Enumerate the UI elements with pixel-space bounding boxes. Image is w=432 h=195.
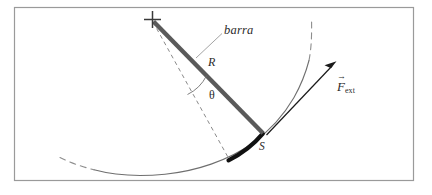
label-external-force: →Fext xyxy=(337,80,355,95)
force-symbol-wrapper: →F xyxy=(337,79,345,94)
label-arc-length-s: S xyxy=(259,141,265,153)
label-radius-r: R xyxy=(208,56,215,68)
force-symbol: F xyxy=(337,79,345,94)
physics-diagram-figure: barra R θ S →Fext xyxy=(0,0,432,195)
diagram-canvas xyxy=(0,0,432,195)
label-barra: barra xyxy=(224,24,253,37)
force-subscript: ext xyxy=(345,86,355,95)
vector-accent-icon: → xyxy=(337,74,346,79)
label-angle-theta: θ xyxy=(209,89,215,101)
